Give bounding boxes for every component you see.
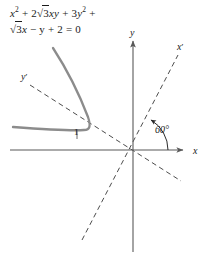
- prime-mark-x: ′: [181, 42, 183, 52]
- unit-tick-label: 1: [74, 127, 79, 137]
- y-axis-label: y: [130, 27, 134, 38]
- equation-line-1: x2 + 2√3xy + 3y2 +: [10, 5, 96, 21]
- x-prime-axis-label: x′: [177, 41, 183, 52]
- y-prime-axis-label: y′: [21, 71, 27, 82]
- equation-plus-1: + 2: [19, 7, 37, 19]
- equation-remainder: − y + 2 = 0: [27, 23, 81, 35]
- coordinate-plot: [0, 0, 206, 265]
- equation-caption: x2 + 2√3xy + 3y2 + √3x − y + 2 = 0: [10, 5, 96, 37]
- equation-plus-2: + 3: [59, 7, 77, 19]
- equation-line-2: √3x − y + 2 = 0: [10, 21, 96, 37]
- equation-term-xy: xy: [49, 7, 59, 19]
- x-axis-label: x: [193, 145, 197, 156]
- radicand-2: 3: [15, 21, 22, 37]
- x-prime-axis-line: [82, 55, 178, 240]
- rotated-conic-figure: x2 + 2√3xy + 3y2 + √3x − y + 2 = 0 x y x…: [0, 0, 206, 265]
- radicand-1: 3: [42, 5, 49, 21]
- prime-mark-y: ′: [25, 72, 27, 82]
- conic-curve: [13, 48, 90, 130]
- equation-trailing-plus: +: [86, 7, 95, 19]
- angle-label: 60°: [155, 124, 169, 135]
